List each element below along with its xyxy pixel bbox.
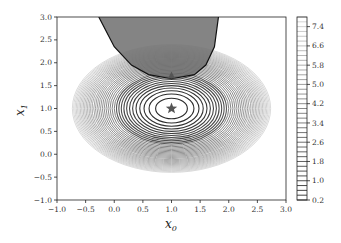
y-axis-label: x1	[13, 104, 29, 116]
x-tick-label: 1.0	[166, 205, 178, 214]
x-tick-label: 0.0	[108, 205, 120, 214]
y-tick-label: 0.5	[40, 127, 52, 136]
colorbar-tick-label: 6.6	[312, 41, 324, 50]
colorbar-tick-label: 5.8	[312, 61, 324, 70]
y-tick-label: 3.0	[40, 13, 52, 22]
colorbar-tick-label: 4.2	[312, 99, 324, 108]
x-tick-label: −1.0	[48, 205, 66, 214]
y-tick-label: 1.0	[40, 104, 52, 113]
x-tick-label: 1.5	[194, 205, 206, 214]
colorbar-tick-label: 2.6	[312, 138, 324, 147]
contour-chart: −1.0−0.50.00.51.01.52.02.53.0 −1.0−0.50.…	[0, 0, 341, 243]
x-tick-label: 3.0	[280, 205, 292, 214]
y-axis-ticks: −1.0−0.50.00.51.01.52.02.53.0	[34, 13, 57, 205]
colorbar-tick-label: 3.4	[312, 119, 324, 128]
colorbar-tick-label: 0.2	[312, 196, 324, 205]
colorbar-tick-label: 5.0	[312, 80, 324, 89]
colorbar-tick-label: 7.4	[312, 22, 324, 31]
y-tick-label: 1.5	[40, 81, 52, 90]
x-axis-label: x0	[165, 217, 177, 233]
y-tick-label: 2.0	[40, 58, 52, 67]
x-tick-label: 2.5	[251, 205, 263, 214]
y-tick-label: −0.5	[34, 173, 52, 182]
y-tick-label: 2.5	[40, 35, 52, 44]
x-axis-ticks: −1.0−0.50.00.51.01.52.02.53.0	[48, 200, 292, 214]
colorbar: 0.21.01.82.63.44.25.05.86.67.4	[297, 17, 324, 205]
x-tick-label: 0.5	[137, 205, 149, 214]
x-tick-label: 2.0	[223, 205, 235, 214]
y-tick-label: −1.0	[34, 196, 52, 205]
plot-area	[57, 17, 286, 200]
y-tick-label: 0.0	[40, 150, 52, 159]
x-tick-label: −0.5	[77, 205, 95, 214]
colorbar-tick-label: 1.0	[312, 176, 324, 185]
colorbar-tick-label: 1.8	[312, 157, 324, 166]
